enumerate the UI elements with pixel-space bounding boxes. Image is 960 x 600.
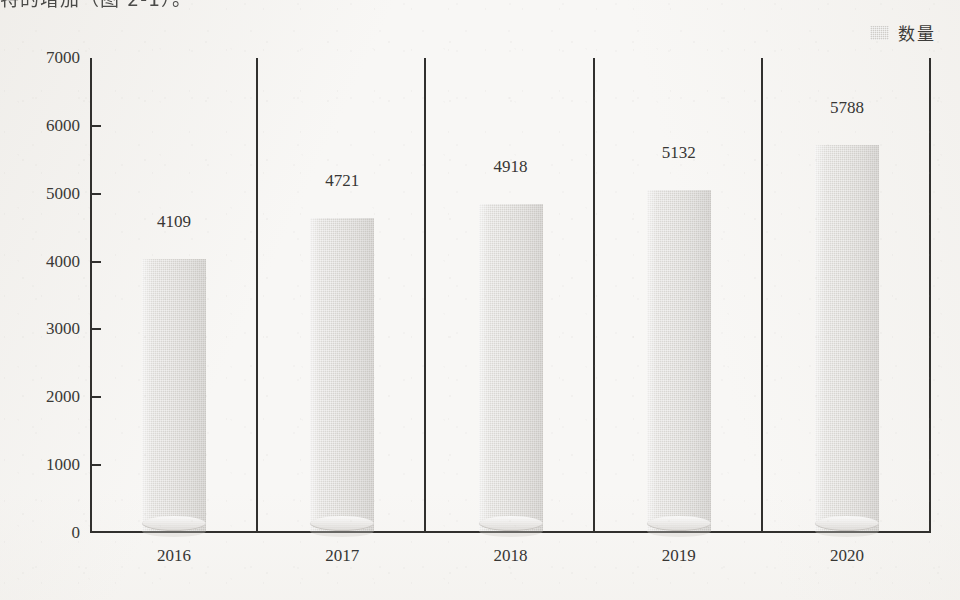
y-axis-tick [92,193,101,195]
x-axis-label-2020: 2020 [830,546,864,566]
value-label-2019: 5132 [662,143,696,163]
bar-2018[interactable] [479,197,543,531]
y-axis-label: 7000 [8,48,80,68]
cut-off-heading: 特的增加（图 2-1）。 [0,0,300,10]
legend-label: 数量 [898,20,936,45]
y-axis-tick [92,261,101,263]
bar-cap-ellipse [815,516,879,531]
category-separator [424,58,426,533]
y-axis-label: 2000 [8,387,80,407]
category-separator [929,58,931,533]
category-separator [256,58,258,533]
chart-legend: 数量 [870,20,936,45]
bar-body [647,190,711,531]
y-axis-tick [92,464,101,466]
bar-2020[interactable] [815,138,879,531]
cut-off-heading-text: 特的增加（图 2-1）。 [0,0,300,10]
bar-cap-ellipse [142,516,206,531]
value-label-2018: 4918 [494,157,528,177]
bar-cap-ellipse [310,516,374,531]
legend-swatch-icon [870,26,889,40]
bar-body [479,204,543,531]
value-label-2016: 4109 [157,212,191,232]
category-separator [593,58,595,533]
bar-cap-ellipse [479,516,543,531]
y-axis-label: 5000 [8,184,80,204]
y-axis-label: 3000 [8,319,80,339]
y-axis-label: 4000 [8,252,80,272]
x-axis-label-2019: 2019 [662,546,696,566]
y-axis-label: 0 [8,523,80,543]
x-axis-label-2018: 2018 [494,546,528,566]
bar-body [310,218,374,531]
bar-body [815,145,879,531]
x-axis-label-2017: 2017 [325,546,359,566]
value-label-2020: 5788 [830,98,864,118]
x-axis-label-2016: 2016 [157,546,191,566]
y-axis-tick [92,396,101,398]
bar-cap-ellipse [647,516,711,531]
y-axis-label: 1000 [8,455,80,475]
plot-area [90,58,931,533]
y-axis [90,58,92,533]
y-axis-tick [92,125,101,127]
value-label-2017: 4721 [325,171,359,191]
y-axis-label: 6000 [8,116,80,136]
bar-chart: 01000200030004000500060007000 4109472149… [0,0,960,600]
category-separator [761,58,763,533]
y-axis-tick [92,328,101,330]
bar-2016[interactable] [142,252,206,531]
bar-2019[interactable] [647,183,711,531]
bar-body [142,259,206,531]
bar-2017[interactable] [310,211,374,531]
